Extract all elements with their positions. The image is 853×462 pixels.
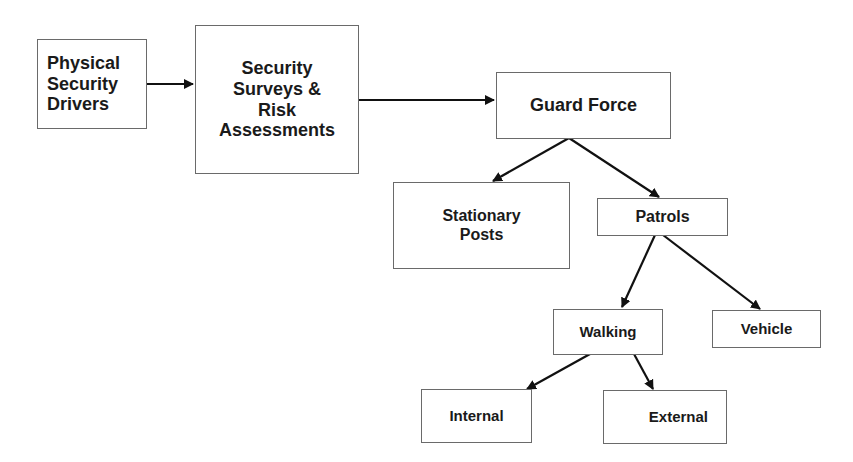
- node-label: Stationary Posts: [442, 207, 520, 244]
- node-label: Physical Security Drivers: [47, 53, 120, 115]
- node-guard-force: Guard Force: [496, 72, 671, 139]
- node-label: Walking: [580, 323, 637, 340]
- node-vehicle: Vehicle: [712, 310, 821, 348]
- node-label: Security Surveys & Risk Assessments: [219, 58, 335, 141]
- arrow-walking-to-external: [634, 354, 653, 389]
- arrow-patrols-to-vehicle: [663, 235, 760, 309]
- node-label: Patrols: [635, 208, 689, 226]
- node-label: Vehicle: [741, 320, 793, 337]
- node-patrols: Patrols: [597, 198, 728, 236]
- node-stationary-posts: Stationary Posts: [393, 182, 570, 269]
- arrow-guard-force-to-patrols: [569, 138, 659, 197]
- arrow-walking-to-internal: [527, 354, 590, 389]
- node-walking: Walking: [553, 309, 663, 355]
- security-flow-diagram: Physical Security Drivers Security Surve…: [0, 0, 853, 462]
- arrow-patrols-to-walking: [622, 235, 655, 307]
- arrow-guard-force-to-stationary-posts: [493, 138, 569, 181]
- node-security-surveys-risk-assessments: Security Surveys & Risk Assessments: [195, 25, 359, 174]
- node-internal: Internal: [421, 389, 532, 443]
- node-external: External: [603, 390, 727, 444]
- node-label: Internal: [449, 407, 503, 424]
- node-physical-security-drivers: Physical Security Drivers: [37, 39, 147, 129]
- node-label: External: [649, 408, 708, 425]
- node-label: Guard Force: [530, 95, 637, 116]
